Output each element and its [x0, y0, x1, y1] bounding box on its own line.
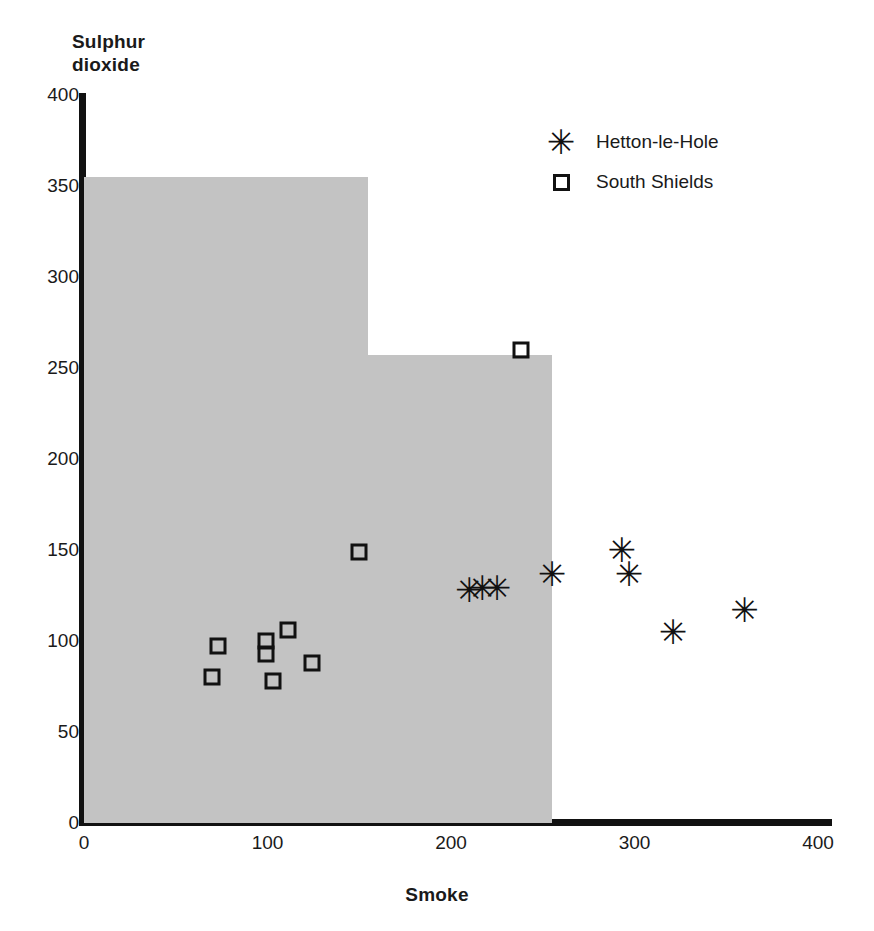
y-axis-title: Sulphur dioxide — [72, 30, 212, 76]
x-tick-label-300: 300 — [595, 832, 675, 854]
data-point-hetton-le-hole-7: ✳ — [658, 617, 688, 647]
legend-item-south-shields[interactable]: South Shields — [544, 162, 719, 202]
chart-legend: ✳Hetton-le-HoleSouth Shields — [544, 122, 719, 202]
data-point-south-shields-2 — [204, 669, 221, 686]
y-axis-title-line-2: dioxide — [72, 53, 212, 76]
y-tick-label-350: 350 — [7, 175, 79, 197]
y-tick-label-200: 200 — [7, 448, 79, 470]
legend-glyph — [553, 174, 570, 191]
data-point-south-shields-5 — [279, 622, 296, 639]
data-point-south-shields-8 — [351, 543, 368, 560]
data-point-south-shields-9 — [512, 341, 529, 358]
data-point-hetton-le-hole-6: ✳ — [614, 559, 644, 589]
y-tick-label-400: 400 — [7, 84, 79, 106]
y-axis-tick-labels: 400350300250200150100500 — [0, 0, 79, 931]
data-point-hetton-le-hole-4: ✳ — [537, 559, 567, 589]
data-point-hetton-le-hole-8: ✳ — [730, 595, 760, 625]
y-tick-label-100: 100 — [7, 630, 79, 652]
data-point-hetton-le-hole-3: ✳ — [482, 573, 512, 603]
x-tick-label-200: 200 — [411, 832, 491, 854]
y-tick-label-0: 0 — [7, 812, 79, 834]
y-tick-label-150: 150 — [7, 539, 79, 561]
x-tick-label-100: 100 — [228, 832, 308, 854]
legend-marker-asterisk-icon: ✳ — [544, 127, 578, 157]
x-tick-label-400: 400 — [778, 832, 858, 854]
data-point-south-shields-6 — [265, 673, 282, 690]
x-axis-title: Smoke — [0, 884, 874, 906]
legend-label: Hetton-le-Hole — [596, 131, 719, 153]
legend-marker-open-square-icon — [544, 174, 578, 191]
legend-glyph: ✳ — [546, 127, 576, 157]
y-axis-title-line-1: Sulphur — [72, 30, 212, 53]
plot-area: ✳✳✳✳✳✳✳✳ — [84, 95, 818, 823]
legend-item-hetton-le-hole[interactable]: ✳Hetton-le-Hole — [544, 122, 719, 162]
legend-label: South Shields — [596, 171, 713, 193]
x-tick-label-0: 0 — [44, 832, 124, 854]
data-point-south-shields-7 — [303, 654, 320, 671]
y-tick-label-50: 50 — [7, 721, 79, 743]
scatter-chart: Sulphur dioxide 400350300250200150100500… — [0, 0, 874, 931]
data-point-south-shields-4 — [257, 645, 274, 662]
y-tick-label-300: 300 — [7, 266, 79, 288]
data-point-south-shields-1 — [209, 638, 226, 655]
y-tick-label-250: 250 — [7, 357, 79, 379]
